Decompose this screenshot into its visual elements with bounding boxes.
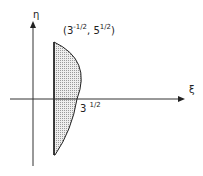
paren-close: )	[111, 25, 115, 36]
eta-axis-arrow-icon	[30, 21, 36, 28]
diagram-canvas: η ξ (3-1/2, 51/2) 3 1/2	[0, 0, 203, 176]
point-x-exponent: -1/2	[73, 23, 87, 31]
intercept-base: 3	[80, 103, 86, 114]
xi-axis-arrow-icon	[178, 96, 185, 102]
eta-axis-label: η	[33, 10, 39, 20]
intercept-exponent: 1/2	[90, 101, 101, 109]
point-y-base: 5	[93, 25, 99, 36]
intercept-label: 3 1/2	[80, 104, 101, 114]
point-y-exponent: 1/2	[100, 23, 111, 31]
xi-axis-label: ξ	[189, 85, 195, 95]
point-label: (3-1/2, 51/2)	[63, 26, 115, 36]
